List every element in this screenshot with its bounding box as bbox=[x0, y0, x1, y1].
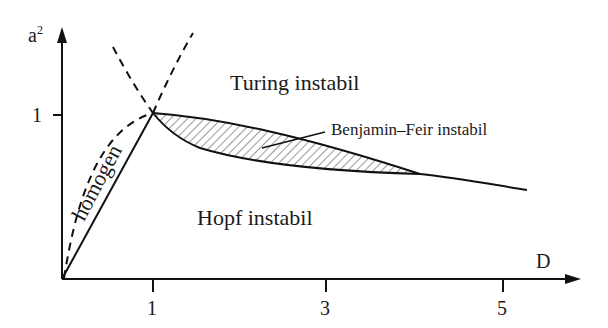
turing-region-label: Turing instabil bbox=[230, 70, 359, 95]
dashed-curve-falling bbox=[113, 47, 153, 113]
x-axis-arrow-icon bbox=[565, 274, 581, 284]
x-axis-label: D bbox=[536, 250, 550, 272]
y-axis-label: a2 bbox=[28, 23, 43, 46]
y-tick-label-1: 1 bbox=[32, 104, 42, 126]
x-tick-label-1: 1 bbox=[147, 297, 157, 319]
x-tick-label-3: 3 bbox=[320, 297, 330, 319]
homogen-region-label: homogen bbox=[66, 140, 127, 224]
phase-diagram: a2 D 1 1 3 5 Turing instabil Hopf instab… bbox=[0, 0, 608, 328]
bf-region-label: Benjamin–Feir instabil bbox=[331, 120, 488, 139]
x-tick-label-5: 5 bbox=[497, 297, 507, 319]
dashed-curve-rising bbox=[153, 33, 193, 113]
hopf-region-label: Hopf instabil bbox=[197, 205, 313, 230]
y-axis-arrow-icon bbox=[57, 27, 67, 43]
